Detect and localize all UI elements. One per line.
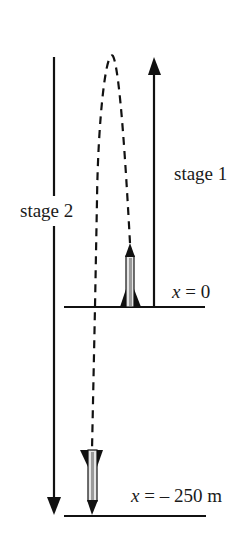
dashed-trajectory (92, 55, 130, 450)
stage2-arrow (47, 57, 61, 515)
position-value: = – 250 m (139, 485, 222, 506)
upper-position-label: x = 0 (172, 282, 210, 301)
lower-position-label: x = – 250 m (131, 486, 222, 505)
rocket-landing (80, 450, 103, 515)
position-value: = 0 (180, 281, 210, 302)
stage2-label: stage 2 (20, 201, 73, 220)
rocket-launch (120, 243, 141, 307)
stage1-label: stage 1 (174, 164, 227, 183)
rocket-motion-diagram (0, 0, 244, 547)
stage1-arrow (148, 57, 161, 307)
